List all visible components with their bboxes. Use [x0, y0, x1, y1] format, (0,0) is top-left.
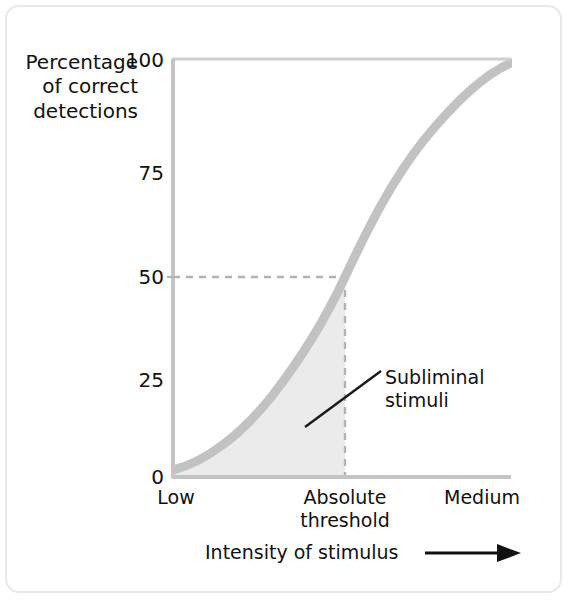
x-axis-tick-threshold-line-1: Absolute: [303, 486, 386, 508]
x-axis-tick-threshold-line-2: threshold: [300, 509, 389, 531]
subliminal-annotation-line-2: stimuli: [385, 389, 449, 411]
arrow-right-icon: [425, 544, 521, 562]
x-axis-tick-medium: Medium: [427, 486, 537, 508]
y-axis-title-line-2: of correct: [42, 74, 138, 98]
subliminal-stimuli-annotation: Subliminalstimuli: [385, 366, 484, 412]
x-axis-tick-low: Low: [140, 486, 212, 508]
y-axis-tick-75: 75: [112, 162, 164, 185]
y-axis-tick-50: 50: [112, 266, 164, 289]
subliminal-region-fill: [173, 277, 345, 477]
y-axis-tick-25: 25: [112, 369, 164, 392]
y-axis-title-line-3: detections: [33, 99, 138, 123]
x-axis-tick-absolute-threshold: Absolutethreshold: [283, 486, 407, 532]
y-axis-tick-100: 100: [112, 49, 164, 72]
subliminal-annotation-line-1: Subliminal: [385, 366, 484, 388]
x-axis-title: Intensity of stimulus: [205, 541, 399, 563]
